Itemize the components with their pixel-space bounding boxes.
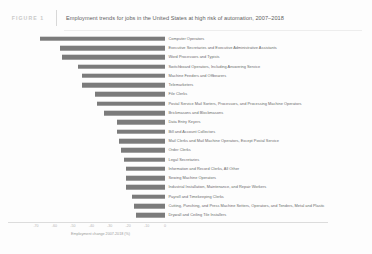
bar-track [36,43,165,52]
bar-category-label: Switchboard Operators, Including Answeri… [169,65,261,69]
chart-bar-row: Telemarketers [36,80,336,89]
chart-bar-row: Information and Record Clerks, All Other [36,164,336,173]
bar-category-label: Cutting, Punching, and Press Machine Set… [169,204,325,208]
bar-track [36,173,165,182]
bar-track [36,34,165,43]
bar [126,167,165,172]
chart-bar-row: Cutting, Punching, and Press Machine Set… [36,201,336,210]
bar-track [36,99,165,108]
x-axis-tick-label: -40 [89,224,94,228]
bar-track [36,211,165,220]
chart-bar-row: Data Entry Keyers [36,118,336,127]
bar-track [36,118,165,127]
bar-category-label: Order Clerks [169,148,191,152]
bar [124,157,165,162]
bar-track [36,90,165,99]
bar [117,120,165,125]
chart-bar-row: Executive Secretaries and Executive Admi… [36,43,336,52]
bar [82,83,165,88]
bar [40,36,165,41]
bar [136,213,165,218]
bar [126,185,165,190]
bar-track [36,71,165,80]
x-axis-tick-label: -70 [33,224,38,228]
bar-track [36,136,165,145]
bar-category-label: Executive Secretaries and Executive Admi… [169,46,277,50]
header-rule [64,30,362,31]
bar [78,64,165,69]
bar-category-label: Word Processors and Typists [169,55,220,59]
x-axis-ticks: -70-60-50-40-30-20-100 [36,224,165,232]
bar-track [36,146,165,155]
bar-track [36,80,165,89]
chart-bar-row: File Clerks [36,90,336,99]
bar-chart: Computer OperatorsExecutive Secretaries … [0,32,372,254]
bar-category-label: Data Entry Keyers [169,120,201,124]
bar-category-label: Machine Feeders and Offbearers [169,74,227,78]
figure-container: FIGURE 1 Employment trends for jobs in t… [0,0,372,254]
chart-bar-row: Machine Feeders and Offbearers [36,71,336,80]
bar-category-label: Brickmasons and Blockmasons [169,111,224,115]
bar [126,176,165,181]
chart-bar-row: Legal Secretaries [36,155,336,164]
bar [119,139,165,144]
figure-number-badge: FIGURE 1 [0,15,56,21]
bar [82,74,165,79]
bar-category-label: Legal Secretaries [169,158,200,162]
chart-bar-row: Industrial Installation, Maintenance, an… [36,183,336,192]
x-axis-tick-label: 0 [164,224,166,228]
bar [95,92,165,97]
bar [104,111,165,116]
bar-category-label: Drywall and Ceiling Tile Installers [169,213,227,217]
x-axis-tick-label: -20 [126,224,131,228]
bar [60,46,165,51]
chart-bar-row: Order Clerks [36,146,336,155]
bar [62,55,165,60]
header-divider [56,10,57,26]
bar-track [36,53,165,62]
figure-header: FIGURE 1 Employment trends for jobs in t… [0,9,372,27]
x-axis-tick-label: -30 [107,224,112,228]
bar-category-label: Information and Record Clerks, All Other [169,167,240,171]
x-axis-label: Employment change 2007-2018 (%) [36,232,165,236]
chart-plot-area: Computer OperatorsExecutive Secretaries … [36,34,336,220]
bar [121,148,165,153]
bar [97,101,165,106]
chart-bar-row: Computer Operators [36,34,336,43]
chart-bar-row: Word Processors and Typists [36,53,336,62]
chart-bar-row: Bill and Account Collectors [36,127,336,136]
chart-bar-row: Brickmasons and Blockmasons [36,108,336,117]
bar-category-label: Bill and Account Collectors [169,130,216,134]
bar-track [36,127,165,136]
x-axis-tick-label: -60 [52,224,57,228]
chart-bar-row: Mail Clerks and Mail Machine Operators, … [36,136,336,145]
chart-bar-row: Sewing Machine Operators [36,173,336,182]
bar-category-label: Industrial Installation, Maintenance, an… [169,185,267,189]
bar-category-label: File Clerks [169,92,188,96]
figure-title: Employment trends for jobs in the United… [66,15,284,21]
bar-track [36,164,165,173]
chart-bar-row: Switchboard Operators, Including Answeri… [36,62,336,71]
bar-category-label: Telemarketers [169,83,194,87]
bar-track [36,183,165,192]
x-axis-tick-label: -10 [144,224,149,228]
bar-category-label: Payroll and Timekeeping Clerks [169,195,224,199]
chart-bar-row: Payroll and Timekeeping Clerks [36,192,336,201]
chart-bar-row: Drywall and Ceiling Tile Installers [36,211,336,220]
bar-track [36,201,165,210]
bar-track [36,155,165,164]
chart-bar-row: Postal Service Mail Sorters, Processors,… [36,99,336,108]
bar [132,194,165,199]
bar-category-label: Postal Service Mail Sorters, Processors,… [169,102,302,106]
x-axis-line [8,222,328,223]
bar [134,204,165,209]
bar-track [36,62,165,71]
bar-track [36,108,165,117]
bar-category-label: Mail Clerks and Mail Machine Operators, … [169,139,279,143]
x-axis-tick-label: -50 [70,224,75,228]
bar-track [36,192,165,201]
bar [117,129,165,134]
bar-category-label: Computer Operators [169,37,205,41]
bar-category-label: Sewing Machine Operators [169,176,216,180]
